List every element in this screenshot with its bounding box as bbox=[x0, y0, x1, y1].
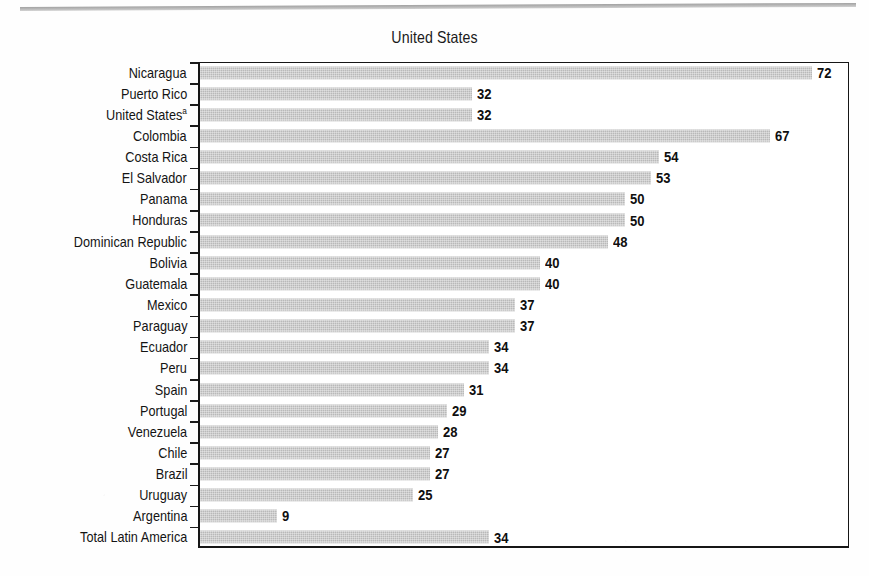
bar-value-label: 32 bbox=[477, 86, 491, 101]
bar bbox=[200, 320, 515, 333]
bar-value-label: 9 bbox=[282, 509, 289, 524]
bar-value-label: 54 bbox=[664, 150, 678, 165]
axis-tick bbox=[190, 358, 198, 360]
bar-value-label: 27 bbox=[435, 446, 449, 461]
chart-page: United States Nicaragua72Puerto Rico32Un… bbox=[0, 0, 869, 576]
bar-and-value: 54 bbox=[200, 151, 680, 164]
bar bbox=[200, 235, 608, 248]
bar-row: Guatemala40 bbox=[0, 273, 869, 294]
bar-value-label: 29 bbox=[452, 403, 466, 418]
bar bbox=[200, 66, 812, 79]
bar-and-value: 27 bbox=[200, 446, 451, 459]
axis-tick bbox=[190, 294, 198, 296]
bar-and-value: 28 bbox=[200, 425, 459, 438]
bar-and-value: 37 bbox=[200, 298, 536, 311]
bar-category-label: Dominican Republic bbox=[74, 234, 187, 249]
bar-value-label: 28 bbox=[443, 424, 457, 439]
bar-and-value: 72 bbox=[200, 66, 833, 79]
bar-and-value: 50 bbox=[200, 214, 646, 227]
bar-value-label: 67 bbox=[775, 129, 789, 144]
bar-category-label: Peru bbox=[160, 361, 187, 376]
bar-row: Nicaragua72 bbox=[0, 62, 869, 83]
bar bbox=[200, 425, 438, 438]
chart-title: United States bbox=[61, 28, 808, 47]
footnote-marker: a bbox=[182, 105, 187, 116]
bar-and-value: 40 bbox=[200, 256, 561, 269]
bar-and-value: 25 bbox=[200, 489, 434, 502]
axis-tick bbox=[190, 527, 198, 529]
bar bbox=[200, 404, 447, 417]
bar-category-label: Guatemala bbox=[125, 277, 187, 292]
axis-tick bbox=[190, 506, 198, 508]
bar-and-value: 29 bbox=[200, 404, 468, 417]
bar bbox=[200, 87, 472, 100]
bar-row: Portugal29 bbox=[0, 400, 869, 421]
bar-value-label: 27 bbox=[435, 467, 449, 482]
bar-row: Ecuador34 bbox=[0, 337, 869, 358]
bar-value-label: 40 bbox=[545, 255, 559, 270]
axis-tick bbox=[190, 485, 198, 487]
bar-and-value: 34 bbox=[200, 531, 510, 544]
bar bbox=[200, 489, 413, 502]
bar-category-label: El Salvador bbox=[122, 171, 187, 186]
bar bbox=[200, 256, 540, 269]
bar-value-label: 72 bbox=[817, 65, 831, 80]
bar-value-label: 48 bbox=[613, 234, 627, 249]
bar-row: Spain31 bbox=[0, 379, 869, 400]
bar-rows-container: Nicaragua72Puerto Rico32United Statesa32… bbox=[0, 62, 869, 548]
bar-value-label: 31 bbox=[469, 382, 483, 397]
bar-category-label: Colombia bbox=[133, 129, 187, 144]
bar bbox=[200, 531, 489, 544]
bar-category-label: Brazil bbox=[155, 467, 187, 482]
bar bbox=[200, 341, 489, 354]
bar-and-value: 50 bbox=[200, 193, 646, 206]
bar-and-value: 9 bbox=[200, 510, 290, 523]
bar-value-label: 40 bbox=[545, 276, 559, 291]
bar-category-label: Total Latin America bbox=[80, 530, 187, 545]
axis-tick bbox=[190, 463, 198, 465]
bar-value-label: 53 bbox=[656, 171, 670, 186]
bar-row: Venezuela28 bbox=[0, 421, 869, 442]
bar-and-value: 40 bbox=[200, 277, 561, 290]
bar-value-label: 34 bbox=[494, 530, 508, 545]
bar-category-label: Spain bbox=[155, 382, 187, 397]
axis-tick bbox=[190, 231, 198, 233]
bar-value-label: 34 bbox=[494, 340, 508, 355]
bar-category-label: Puerto Rico bbox=[121, 86, 187, 101]
bar-category-label: Paraguay bbox=[133, 319, 187, 334]
bar bbox=[200, 129, 770, 142]
bar-value-label: 50 bbox=[630, 192, 644, 207]
axis-tick bbox=[190, 273, 198, 275]
bar-category-label: Uruguay bbox=[139, 488, 187, 503]
bar bbox=[200, 214, 625, 227]
bar-category-label: Nicaragua bbox=[129, 65, 187, 80]
bar-row: Bolivia40 bbox=[0, 252, 869, 273]
bar-row: Mexico37 bbox=[0, 294, 869, 315]
axis-tick bbox=[190, 316, 198, 318]
bar-row: Costa Rica54 bbox=[0, 147, 869, 168]
bar-row: Chile27 bbox=[0, 442, 869, 463]
axis-tick bbox=[190, 400, 198, 402]
bar-row: Argentina9 bbox=[0, 506, 869, 527]
bar-category-label: Costa Rica bbox=[125, 150, 187, 165]
bar-and-value: 67 bbox=[200, 129, 791, 142]
bar-category-label: Argentina bbox=[133, 509, 187, 524]
bar bbox=[200, 277, 540, 290]
bar bbox=[200, 151, 659, 164]
bar-and-value: 53 bbox=[200, 172, 672, 185]
bar-and-value: 27 bbox=[200, 468, 451, 481]
bar-row: Total Latin America34 bbox=[0, 527, 869, 548]
bar-row: El Salvador53 bbox=[0, 168, 869, 189]
bar-category-label: United Statesa bbox=[106, 108, 187, 123]
bar bbox=[200, 383, 464, 396]
axis-tick bbox=[190, 147, 198, 149]
bar-and-value: 48 bbox=[200, 235, 629, 248]
axis-tick bbox=[190, 83, 198, 85]
bar bbox=[200, 510, 277, 523]
top-rule-divider bbox=[20, 3, 856, 11]
bar-category-label: Chile bbox=[158, 446, 187, 461]
bar-value-label: 37 bbox=[520, 319, 534, 334]
bar-category-label: Bolivia bbox=[150, 255, 187, 270]
bar-row: Brazil27 bbox=[0, 463, 869, 484]
bar-row: Dominican Republic48 bbox=[0, 231, 869, 252]
